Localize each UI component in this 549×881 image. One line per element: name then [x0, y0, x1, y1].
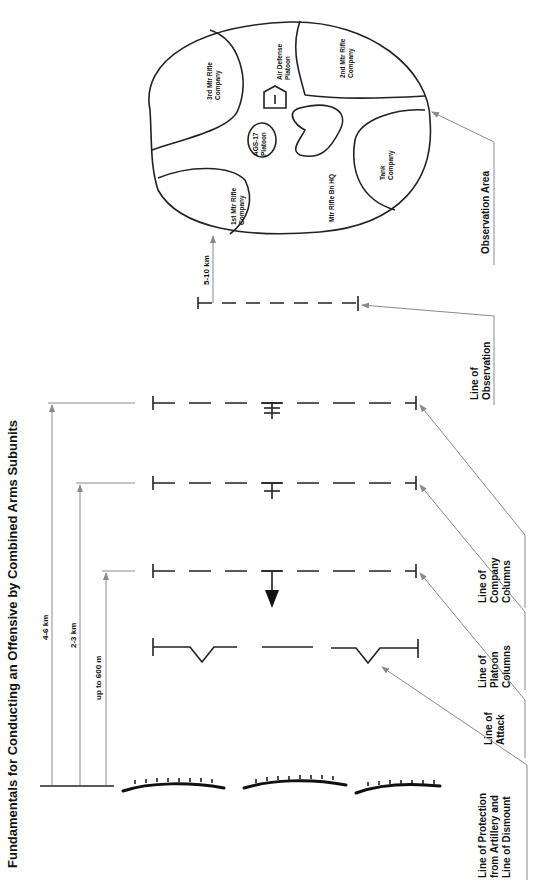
unit-label-3rd-rifle: 3rd Mtr RifleCompany — [206, 62, 222, 100]
line-of-company-columns — [153, 396, 416, 419]
svg-text:5-10 km: 5-10 km — [202, 255, 211, 285]
advance-arrow-icon — [265, 590, 279, 608]
svg-text:2-3 km: 2-3 km — [69, 623, 78, 648]
svg-text:4-6 km: 4-6 km — [41, 615, 50, 640]
svg-text:Line ofAttack: Line ofAttack — [483, 712, 506, 745]
svg-text:Observation Area: Observation Area — [480, 171, 491, 254]
unit-label-bn-hq: Mtr Rifle Bn HQ — [328, 174, 336, 222]
unit-label-ags: AGS-17Platoon — [252, 132, 267, 156]
line-of-protection — [123, 775, 440, 793]
svg-text:up to 600 m: up to 600 m — [94, 656, 103, 700]
svg-text:Line ofObservation: Line ofObservation — [469, 342, 492, 400]
leader-line-of-protection: Line of Protectionfrom Artillery andLine… — [382, 667, 527, 880]
distance-2-3km: 2-3 km — [69, 483, 135, 785]
leader-line-of-company: Line ofCompanyColumns — [420, 405, 525, 608]
distance-5-10km: 5-10 km — [202, 236, 213, 303]
line-of-observation — [198, 296, 358, 311]
diagram-title: Fundamentals for Conducting an Offensive… — [5, 420, 20, 868]
svg-text:Line of Protectionfrom Artille: Line of Protectionfrom Artillery andLine… — [477, 793, 512, 878]
observation-area: 3rd Mtr RifleCompany Air DefensePlatoon … — [149, 21, 431, 234]
unit-label-2nd-rifle: 2nd Mtr RifleCompany — [339, 38, 355, 78]
leader-observation-area: Observation Area — [432, 112, 494, 265]
line-of-attack — [153, 638, 418, 663]
unit-label-1st-rifle: 1st Mtr RifleCompany — [230, 187, 246, 225]
line-of-platoon-columns — [153, 476, 416, 499]
unit-label-tank: TankCompany — [379, 150, 395, 180]
leader-line-of-observation: Line ofObservation — [362, 305, 494, 405]
line-of-deployment — [153, 564, 416, 608]
air-defense-symbol-icon — [264, 86, 286, 108]
unit-label-air-defense: Air DefensePlatoon — [276, 43, 291, 80]
svg-text:Line ofPlatoonColumns: Line ofPlatoonColumns — [477, 645, 512, 688]
distance-up-to-600m: up to 600 m — [94, 571, 135, 785]
distance-4-6km: 4-6 km — [41, 403, 135, 785]
svg-text:Line ofCompanyColumns: Line ofCompanyColumns — [477, 557, 512, 603]
offensive-diagram: Fundamentals for Conducting an Offensive… — [0, 0, 549, 881]
